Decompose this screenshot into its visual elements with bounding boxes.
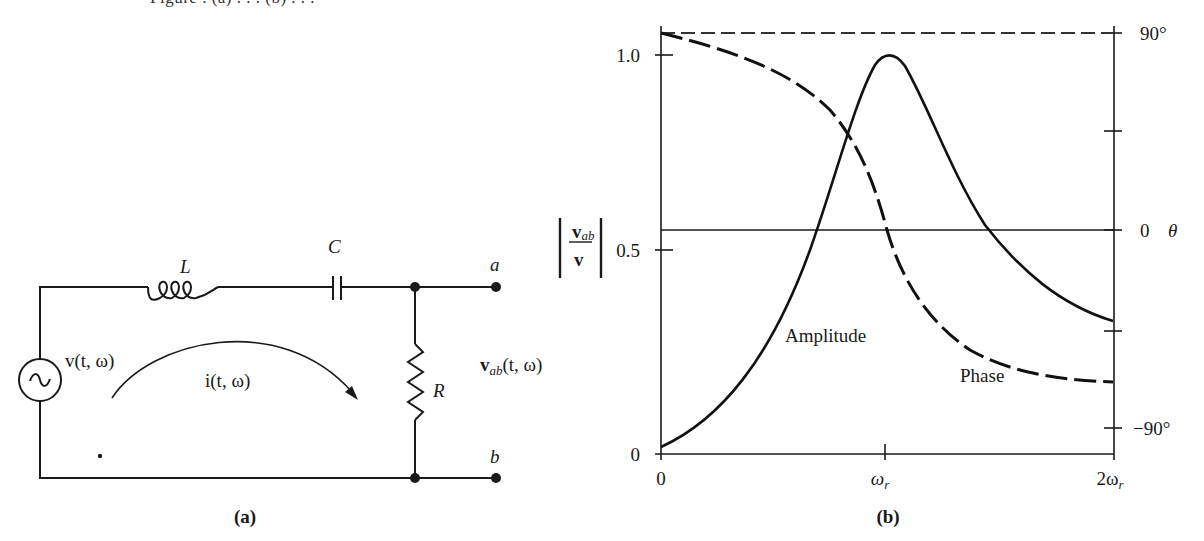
circuit-diagram: L C R a b v(t, ω) i(t, ω) vab(t, ω) (a) <box>19 236 542 528</box>
capacitor-label: C <box>328 236 341 257</box>
svg-text:vab: vab <box>572 221 595 243</box>
x-tick-label-2wr: 2ωr <box>1096 468 1124 492</box>
output-voltage-label: vab(t, ω) <box>480 354 542 378</box>
left-tick-label-05: 0.5 <box>616 240 640 261</box>
x-tick-label-wr: ωr <box>871 468 890 492</box>
terminal-a-label: a <box>490 254 500 275</box>
svg-text:v: v <box>574 249 584 270</box>
stray-dot <box>98 454 102 458</box>
capacitor-icon <box>333 276 341 300</box>
left-tick-label-1: 1.0 <box>616 45 640 66</box>
node-top <box>410 282 420 292</box>
right-axis-theta: θ <box>1168 220 1177 241</box>
phase-curve <box>661 33 1113 382</box>
frequency-response-chart: Amplitude Phase 0 0.5 1.0 vab v 90° 0 θ … <box>560 23 1177 528</box>
ac-source-icon <box>19 359 61 401</box>
wire-left-top <box>40 287 148 359</box>
node-bottom <box>410 473 420 483</box>
resistor-label: R <box>432 380 445 401</box>
current-label: i(t, ω) <box>205 370 250 392</box>
y-axis-label: vab v <box>560 218 601 278</box>
right-tick-label-m90: −90° <box>1133 418 1170 439</box>
phase-label: Phase <box>960 365 1004 386</box>
inductor-label: L <box>179 256 191 277</box>
panel-label-a: (a) <box>234 506 256 528</box>
amplitude-curve <box>661 55 1113 447</box>
right-tick-label-90: 90° <box>1140 23 1167 44</box>
resistor-icon <box>408 344 423 420</box>
wire-bottom <box>40 401 496 478</box>
terminal-b-label: b <box>490 446 500 467</box>
source-voltage-label: v(t, ω) <box>65 350 114 372</box>
x-tick-label-0: 0 <box>656 468 666 489</box>
left-tick-label-0: 0 <box>631 444 641 465</box>
amplitude-label: Amplitude <box>785 325 866 346</box>
current-arrowhead-icon <box>345 386 358 400</box>
panel-label-b: (b) <box>876 506 899 528</box>
inductor-icon <box>148 282 218 300</box>
terminal-a-dot <box>491 282 501 292</box>
figure-canvas: L C R a b v(t, ω) i(t, ω) vab(t, ω) (a) <box>0 0 1204 541</box>
right-tick-label-0: 0 <box>1140 220 1150 241</box>
terminal-b-dot <box>491 473 501 483</box>
